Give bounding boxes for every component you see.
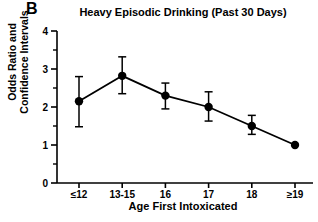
data-point-marker	[291, 141, 299, 149]
data-point-marker	[204, 103, 212, 111]
y-axis-tick-label: 4	[42, 26, 48, 37]
x-axis-tick-labels: ≤1213-15161718≥19	[71, 189, 304, 200]
x-axis-tick-label: 18	[246, 189, 258, 200]
y-axis-tick-label: 1	[42, 140, 48, 151]
x-axis-tick-label: 16	[160, 189, 172, 200]
data-line	[79, 76, 295, 145]
data-point-marker	[75, 97, 83, 105]
x-axis-tick-label: 17	[203, 189, 215, 200]
series-line	[79, 76, 295, 145]
x-axis-tick-label: ≥19	[287, 189, 304, 200]
y-axis-tick-label: 0	[42, 178, 48, 189]
axes	[57, 31, 313, 183]
y-axis-tick-label: 3	[42, 64, 48, 75]
data-point-marker	[248, 122, 256, 130]
data-point-marker	[118, 72, 126, 80]
figure-panel: B Heavy Episodic Drinking (Past 30 Days)…	[0, 0, 318, 222]
y-axis-ticks	[51, 31, 57, 183]
data-point-marker	[161, 91, 169, 99]
x-axis-tick-label: ≤12	[71, 189, 88, 200]
y-axis-tick-labels: 01234	[42, 26, 48, 189]
y-axis-tick-label: 2	[42, 102, 48, 113]
line-chart-plot: 01234 ≤1213-15161718≥19	[0, 0, 318, 222]
x-axis-tick-label: 13-15	[109, 189, 135, 200]
